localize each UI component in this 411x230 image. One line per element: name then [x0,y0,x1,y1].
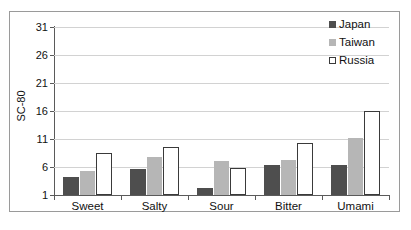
gridline-16 [54,111,389,112]
legend-item-russia: Russia [329,52,393,68]
bar-sweet-russia [96,153,112,195]
bar-salty-taiwan [147,157,163,195]
y-tick-label-31: 31 [18,22,48,33]
y-tick-label-21: 21 [18,78,48,89]
bar-bitter-japan [264,165,280,195]
x-axis-line [54,195,390,196]
x-category-label-salty: Salty [121,200,188,212]
bar-sour-russia [230,168,246,195]
bar-sour-japan [197,188,213,195]
legend-swatch-japan-icon [329,21,336,28]
bar-sour-taiwan [214,161,230,195]
legend-item-japan: Japan [329,16,393,32]
legend-item-taiwan: Taiwan [329,34,393,50]
bar-salty-japan [130,169,146,195]
legend-swatch-russia-icon [329,57,336,64]
bar-umami-japan [331,165,347,195]
y-tick-label-6: 6 [18,162,48,173]
x-category-label-sweet: Sweet [54,200,121,212]
bar-umami-russia [364,111,380,195]
bar-umami-taiwan [348,138,364,195]
x-tick-mark-5 [389,195,390,200]
y-tick-label-26: 26 [18,50,48,61]
legend-swatch-taiwan-icon [329,39,336,46]
y-tick-label-1: 1 [18,190,48,201]
x-category-label-umami: Umami [322,200,389,212]
gridline-11 [54,139,389,140]
x-category-label-sour: Sour [188,200,255,212]
y-axis-tick-labels: 31 26 21 16 11 6 1 [14,0,48,230]
bar-sweet-japan [63,177,79,195]
legend-label-taiwan: Taiwan [339,36,375,48]
legend-label-japan: Japan [339,18,370,30]
y-tick-label-16: 16 [18,106,48,117]
legend: Japan Taiwan Russia [329,16,393,70]
bar-salty-russia [163,147,179,195]
bar-bitter-taiwan [281,160,297,195]
legend-label-russia: Russia [339,54,374,66]
bar-bitter-russia [297,143,313,195]
y-tick-label-11: 11 [18,134,48,145]
bar-sweet-taiwan [80,171,96,195]
gridline-21 [54,83,389,84]
x-category-label-bitter: Bitter [255,200,322,212]
bar-chart: SC-80 31 26 21 16 11 6 1 Sweet Salty Sou… [0,0,411,230]
